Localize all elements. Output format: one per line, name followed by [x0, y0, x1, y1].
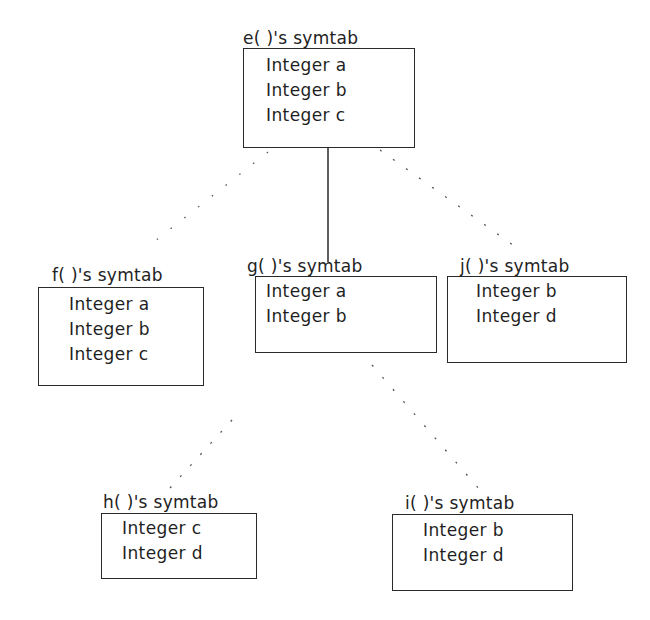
- symtab-title-i: i( )'s symtab: [405, 494, 515, 512]
- symtab-title-j: j( )'s symtab: [460, 257, 570, 275]
- symtab-field: Integer b: [69, 317, 203, 342]
- symtab-box-j: Integer b Integer d: [447, 276, 627, 363]
- symtab-field: Integer a: [266, 279, 436, 304]
- symtab-title-e: e( )'s symtab: [243, 29, 358, 47]
- symtab-field: Integer c: [266, 103, 414, 128]
- symtab-box-f: Integer a Integer b Integer c: [38, 287, 204, 386]
- symtab-title-h: h( )'s symtab: [103, 493, 219, 511]
- symtab-field: Integer d: [122, 541, 256, 566]
- edge-g-h: [170, 420, 232, 488]
- symtab-field: Integer b: [266, 78, 414, 103]
- edge-e-j: [380, 150, 520, 250]
- symtab-field: Integer b: [476, 279, 626, 304]
- symtab-field: Integer a: [266, 53, 414, 78]
- symtab-title-f: f( )'s symtab: [52, 266, 163, 284]
- symtab-box-g: Integer a Integer b: [255, 276, 437, 353]
- symtab-title-g: g( )'s symtab: [247, 257, 363, 275]
- symtab-field: Integer c: [69, 342, 203, 367]
- symtab-field: Integer c: [122, 516, 256, 541]
- symtab-field: Integer b: [423, 518, 572, 543]
- symtab-box-h: Integer c Integer d: [101, 513, 257, 579]
- symtab-field: Integer d: [423, 543, 572, 568]
- edge-g-i: [372, 365, 480, 490]
- symtab-field: Integer a: [69, 292, 203, 317]
- symtab-field: Integer b: [266, 304, 436, 329]
- edge-e-f: [150, 152, 268, 245]
- symtab-box-i: Integer b Integer d: [392, 514, 573, 591]
- symtab-box-e: Integer a Integer b Integer c: [243, 48, 415, 148]
- symtab-field: Integer d: [476, 304, 626, 329]
